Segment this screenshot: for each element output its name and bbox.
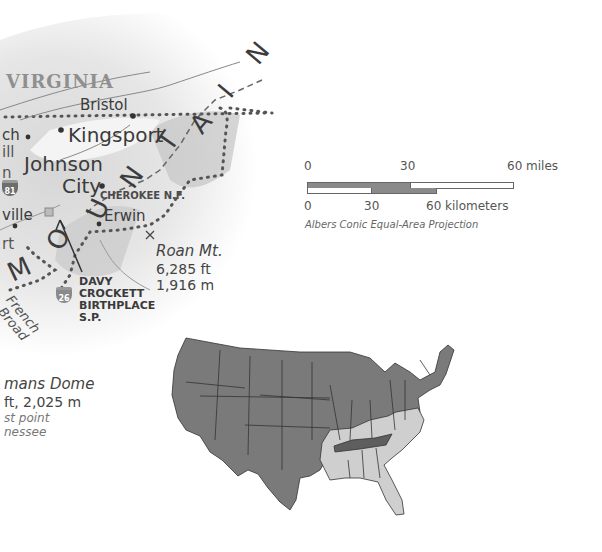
park-label-davy-crockett: DAVY CROCKETT BIRTHPLACE S.P. — [79, 276, 155, 324]
locator-map — [172, 338, 454, 515]
scale-miles-30: 30 — [400, 160, 415, 172]
scale-miles-60: 60 miles — [507, 160, 558, 172]
city-label-kingsport: Kingsport — [68, 125, 163, 145]
city-label-partial-ville: ville — [2, 208, 33, 223]
peak-label-clingmans-elev: ft, 2,025 m — [4, 395, 81, 409]
state-label-virginia: VIRGINIA — [6, 73, 114, 91]
city-label-city: City — [62, 176, 101, 196]
city-label-partial-rt: rt — [2, 237, 14, 252]
us-route-26-shield-icon: 26 — [56, 287, 72, 303]
peak-label-roan-name: Roan Mt. — [156, 244, 223, 259]
peak-label-clingmans-name: mans Dome — [4, 377, 94, 392]
scale-km-60: 60 kilometers — [426, 200, 508, 212]
city-label-partial-ch: ch — [2, 128, 20, 143]
peak-label-roan-m: 1,916 m — [156, 278, 214, 292]
forest-label-cherokee: CHEROKEE N.F. — [100, 191, 185, 201]
scale-km-0: 0 — [304, 200, 312, 212]
interstate-81-shield-icon: 81 — [2, 180, 18, 196]
city-label-partial-ill: ill — [2, 145, 15, 160]
city-label-bristol: Bristol — [80, 98, 128, 113]
projection-label: Albers Conic Equal-Area Projection — [305, 220, 478, 230]
peak-note-line1: st point — [4, 412, 49, 424]
peak-note-line2: nessee — [4, 426, 46, 438]
city-label-partial-n: n — [2, 166, 12, 181]
scale-km-30: 30 — [364, 200, 379, 212]
peak-label-roan-ft: 6,285 ft — [156, 262, 211, 276]
city-label-johnson: Johnson — [24, 154, 103, 174]
scale-miles-0: 0 — [304, 160, 312, 172]
